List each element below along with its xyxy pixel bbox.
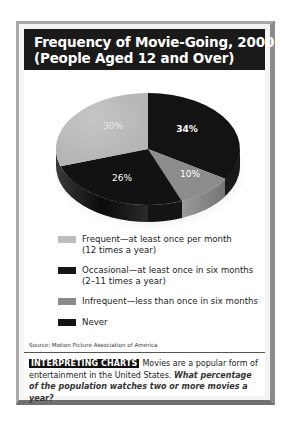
legend-item-occasional: Occasional—at least once in six months (… (58, 265, 273, 286)
legend-item-infrequent: Infrequent—less than once in six months (58, 296, 273, 307)
legend-swatch-gray-icon (58, 298, 76, 305)
legend-swatch-light-gray-icon (58, 236, 76, 243)
legend-swatch-black-icon (58, 319, 76, 326)
label-never: 26% (112, 173, 132, 183)
divider (24, 352, 265, 353)
label-occasional: 34% (176, 124, 198, 134)
legend-label: Occasional—at least once in six months (… (82, 265, 253, 286)
legend-label: Infrequent—less than once in six months (82, 296, 258, 306)
legend: Frequent—at least once per month (12 tim… (58, 234, 273, 337)
chart-frame: Frequency of Movie-Going, 2000 (People A… (16, 21, 275, 405)
label-frequent: 30% (103, 121, 123, 131)
interpreting-tag: INTERPRETING CHARTS (29, 359, 139, 368)
pie-chart: 30% 34% 26% 10% (24, 29, 273, 234)
legend-label: Never (82, 317, 108, 327)
legend-swatch-black-icon (58, 267, 76, 274)
chart-panel: Frequency of Movie-Going, 2000 (People A… (24, 29, 265, 396)
legend-label: Frequent—at least once per month (12 tim… (82, 234, 232, 255)
interpreting-charts: INTERPRETING CHARTSMovies are a popular … (29, 358, 259, 404)
legend-item-frequent: Frequent—at least once per month (12 tim… (58, 234, 273, 255)
label-infrequent: 10% (180, 169, 200, 179)
source-note: Source: Motion Picture Association of Am… (29, 342, 158, 348)
legend-item-never: Never (58, 317, 273, 328)
